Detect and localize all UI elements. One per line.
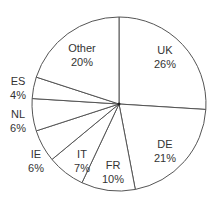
slice-label-it: IT	[77, 148, 87, 160]
pie-chart: UK26%DE21%FR10%IT7%IE6%NL6%ES4%Other20%	[0, 0, 217, 204]
slice-value-uk: 26%	[154, 58, 176, 70]
slice-label-other: Other	[68, 42, 96, 54]
slice-value-nl: 6%	[10, 122, 26, 134]
slice-value-fr: 10%	[102, 173, 124, 185]
slice-label-uk: UK	[157, 44, 173, 56]
slice-value-es: 4%	[10, 89, 26, 101]
slice-label-es: ES	[11, 75, 26, 87]
slice-value-ie: 6%	[28, 162, 44, 174]
slice-label-ie: IE	[31, 148, 41, 160]
slice-label-fr: FR	[106, 159, 121, 171]
slice-value-other: 20%	[71, 56, 93, 68]
slice-value-de: 21%	[154, 152, 176, 164]
slice-label-de: DE	[157, 138, 172, 150]
pie-center	[118, 103, 121, 106]
slice-value-it: 7%	[74, 162, 90, 174]
slice-label-nl: NL	[11, 108, 25, 120]
